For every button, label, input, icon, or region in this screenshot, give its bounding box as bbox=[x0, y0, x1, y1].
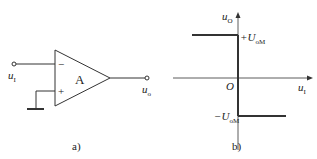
neg-sat-prefix: −U bbox=[214, 110, 229, 122]
pos-sat-sub: oM bbox=[255, 38, 265, 46]
pos-sat-prefix: +U bbox=[240, 31, 255, 43]
amplifier-label: A bbox=[75, 73, 84, 86]
input-sub: I bbox=[14, 76, 16, 84]
x-axis-arrow bbox=[307, 76, 313, 81]
diagram-lines bbox=[0, 0, 317, 159]
input-voltage-label: uI bbox=[8, 70, 16, 84]
x-axis-label: uI bbox=[298, 82, 306, 96]
y-axis-arrow bbox=[236, 12, 241, 18]
noninverting-input-sign: + bbox=[58, 86, 64, 97]
caption-b: b) bbox=[232, 141, 241, 152]
y-axis-label: uO bbox=[222, 11, 233, 25]
negative-saturation-label: −UoM bbox=[214, 111, 239, 125]
x-sub: I bbox=[304, 88, 306, 96]
inverting-input-sign: − bbox=[58, 59, 64, 70]
neg-sat-sub: oM bbox=[229, 117, 239, 125]
output-terminal bbox=[145, 76, 149, 80]
positive-saturation-label: +UoM bbox=[240, 32, 265, 46]
output-sub: o bbox=[148, 90, 152, 98]
opamp-comparator-figure: − + A uI uo a) uO +UoM O uI −UoM b) bbox=[0, 0, 317, 159]
output-voltage-label: uo bbox=[142, 84, 151, 98]
y-sub: O bbox=[228, 17, 233, 25]
origin-label: O bbox=[226, 81, 234, 92]
caption-a: a) bbox=[72, 141, 81, 152]
input-terminal bbox=[12, 62, 16, 66]
